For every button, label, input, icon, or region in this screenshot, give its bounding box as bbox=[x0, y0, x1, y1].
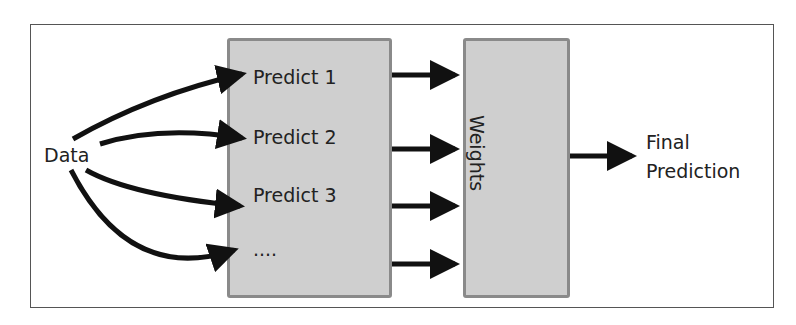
predict-2-label: Predict 2 bbox=[253, 126, 337, 148]
arrow-data-more bbox=[71, 170, 234, 258]
final-label-line1: Final bbox=[646, 131, 690, 153]
arrow-data-predict1 bbox=[73, 74, 242, 139]
predict-more-label: .... bbox=[253, 238, 277, 260]
predict-3-label: Predict 3 bbox=[253, 184, 337, 206]
arrow-data-predict2 bbox=[100, 133, 242, 144]
weights-label: Weights bbox=[466, 115, 488, 191]
predict-1-label: Predict 1 bbox=[253, 66, 337, 88]
data-label: Data bbox=[44, 144, 89, 166]
final-label-line2: Prediction bbox=[646, 160, 740, 182]
arrow-data-predict3 bbox=[86, 170, 240, 206]
